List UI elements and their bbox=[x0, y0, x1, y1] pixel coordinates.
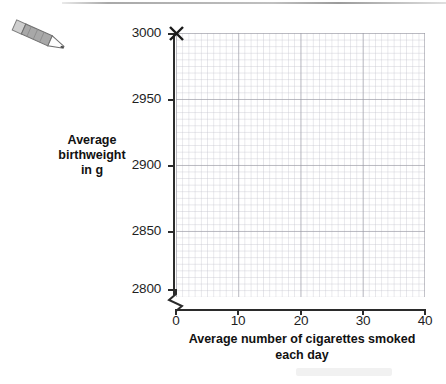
scatter-chart: 3000 2950 2900 2850 2800 0 10 20 30 40 A… bbox=[0, 0, 446, 384]
plot-grid-area bbox=[176, 33, 425, 297]
x-tick-label-20: 20 bbox=[281, 313, 321, 328]
y-axis-title-line-3: in g bbox=[46, 163, 138, 178]
cross-marker-icon bbox=[168, 25, 185, 42]
x-tick-label-10: 10 bbox=[218, 313, 258, 328]
x-axis-title: Average number of cigarettes smoked each… bbox=[158, 331, 446, 363]
y-tick-label-2950: 2950 bbox=[115, 91, 161, 106]
x-tick-label-0: 0 bbox=[156, 313, 196, 328]
y-tick-2900 bbox=[168, 165, 175, 167]
y-tick-2950 bbox=[168, 99, 175, 101]
x-axis-title-line-1: Average number of cigarettes smoked bbox=[158, 331, 446, 347]
y-axis-title: Average birthweight in g bbox=[46, 133, 138, 178]
y-tick-label-2850: 2850 bbox=[115, 223, 161, 238]
y-tick-label-2800: 2800 bbox=[115, 281, 161, 296]
x-tick-label-40: 40 bbox=[405, 313, 445, 328]
y-axis-line bbox=[173, 33, 175, 295]
y-tick-2850 bbox=[168, 231, 175, 233]
x-tick-label-30: 30 bbox=[343, 313, 383, 328]
y-tick-2800 bbox=[168, 289, 175, 291]
y-axis-title-line-1: Average bbox=[46, 133, 138, 148]
y-axis-title-line-2: birthweight bbox=[46, 148, 138, 163]
plot-right-border bbox=[424, 33, 425, 297]
y-tick-label-3000: 3000 bbox=[115, 25, 161, 40]
scan-artifact bbox=[296, 368, 392, 376]
x-axis-title-line-2: each day bbox=[158, 347, 446, 363]
